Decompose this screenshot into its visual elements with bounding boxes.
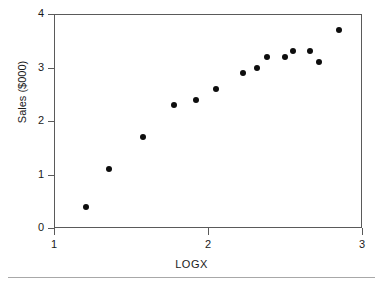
data-point: [290, 48, 296, 54]
x-axis-tick-label: 3: [347, 239, 377, 250]
data-point: [307, 48, 313, 54]
data-point: [336, 27, 342, 33]
data-point: [171, 102, 177, 108]
data-point: [240, 70, 246, 76]
y-axis-tick-label: 1: [0, 169, 44, 180]
y-axis-tick-label: 0: [0, 222, 44, 233]
x-axis-title: LOGX: [0, 258, 383, 270]
x-axis-tick-mark: [362, 228, 363, 235]
data-point: [282, 54, 288, 60]
data-point: [316, 59, 322, 65]
y-axis-tick-label: 4: [0, 8, 44, 19]
data-point: [213, 86, 219, 92]
data-point: [193, 97, 199, 103]
y-axis-title: Sales ($000): [16, 22, 28, 162]
plot-data-area: [54, 14, 362, 228]
scatter-plot-figure: 01234 123 Sales ($000) LOGX: [0, 0, 383, 283]
x-axis-tick-mark: [208, 228, 209, 235]
x-axis-tick-label: 1: [39, 239, 69, 250]
data-point: [254, 65, 260, 71]
x-axis-tick-mark: [54, 228, 55, 235]
data-point: [140, 134, 146, 140]
footer-divider: [8, 277, 375, 278]
x-axis-tick-label: 2: [193, 239, 223, 250]
data-point: [106, 166, 112, 172]
data-point: [83, 204, 89, 210]
data-point: [264, 54, 270, 60]
